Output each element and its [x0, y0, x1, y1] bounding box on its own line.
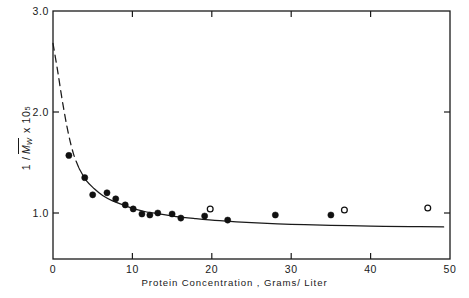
- data-point-filled: [225, 217, 231, 223]
- x-axis-title: Protein Concentration , Grams/ Liter: [0, 278, 469, 288]
- fitted-solid-curve-path: [79, 169, 443, 227]
- x-tick-label: 50: [434, 264, 466, 275]
- data-point-open: [207, 206, 213, 212]
- plot-frame: [53, 11, 450, 259]
- figure-container: 1.02.03.0 01020304050 Protein Concentrat…: [0, 0, 469, 298]
- x-tick-label: 40: [355, 264, 387, 275]
- extrapolated-dashed-segment-path: [53, 43, 79, 168]
- fitted-curves: [53, 43, 444, 227]
- axis-ticks: [53, 11, 450, 259]
- data-point-filled: [169, 211, 175, 217]
- x-tick-label: 0: [37, 264, 69, 275]
- y-axis-title-multiplier: x 10: [20, 110, 32, 133]
- data-point-filled: [66, 152, 72, 158]
- data-point-filled: [82, 175, 88, 181]
- data-point-filled: [202, 213, 208, 219]
- y-axis-title-exponent: 5: [23, 106, 32, 111]
- data-point-filled: [139, 211, 145, 217]
- data-point-filled: [147, 212, 153, 218]
- data-point-filled: [155, 210, 161, 216]
- y-axis-title-prefix: 1 /: [20, 157, 32, 171]
- data-point-filled: [90, 192, 96, 198]
- data-points: [66, 152, 431, 223]
- y-axis-title: 1 /MWx 105: [16, 68, 36, 208]
- y-axis-title-subscript: W: [25, 138, 34, 145]
- y-axis-title-symbol: MW: [18, 138, 34, 154]
- data-point-filled: [113, 196, 119, 202]
- data-point-open: [425, 205, 431, 211]
- scatter-plot-canvas: [0, 0, 469, 298]
- data-point-filled: [272, 212, 278, 218]
- x-tick-label: 20: [196, 264, 228, 275]
- data-point-filled: [130, 206, 136, 212]
- data-point-filled: [178, 215, 184, 221]
- data-point-filled: [122, 202, 128, 208]
- x-tick-label: 30: [275, 264, 307, 275]
- y-tick-label: 3.0: [21, 6, 49, 17]
- data-point-open: [342, 207, 348, 213]
- data-point-filled: [104, 190, 110, 196]
- x-tick-label: 10: [116, 264, 148, 275]
- y-tick-label: 1.0: [21, 208, 49, 219]
- data-point-filled: [328, 212, 334, 218]
